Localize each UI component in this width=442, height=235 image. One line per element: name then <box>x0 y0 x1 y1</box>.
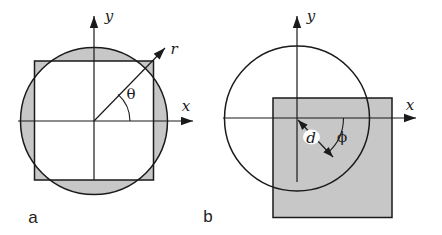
panel-a-theta-label: θ <box>126 85 135 103</box>
panel-b-phi-label: ϕ <box>337 128 347 146</box>
panel-b-y-label: y <box>306 7 316 25</box>
panel-b: y x d ϕ b <box>203 7 416 226</box>
panel-b-d-label: d <box>306 129 316 147</box>
figure-canvas: y x r θ a y x d ϕ b <box>0 0 442 235</box>
geometry-figure: y x r θ a y x d ϕ b <box>0 0 442 235</box>
panel-a-r-label: r <box>170 40 178 58</box>
panel-a: y x r θ a <box>18 7 193 227</box>
panel-b-x-label: x <box>406 96 415 114</box>
panel-a-y-label: y <box>104 7 114 25</box>
panel-a-x-label: x <box>182 97 191 115</box>
panel-b-caption: b <box>203 207 212 226</box>
panel-a-caption: a <box>28 208 38 227</box>
panel-b-square <box>273 98 392 218</box>
